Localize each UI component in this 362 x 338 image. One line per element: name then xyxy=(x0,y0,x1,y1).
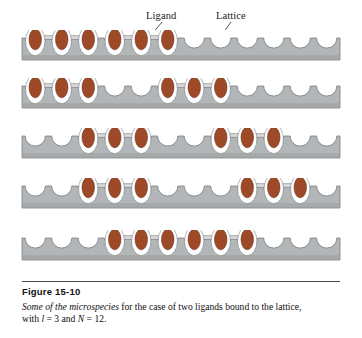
ligand-bead xyxy=(82,178,94,198)
lattice-graphic xyxy=(0,178,362,218)
ligand-bead xyxy=(135,30,147,50)
ligand-bead xyxy=(135,128,147,148)
ligand-bead xyxy=(215,230,227,250)
ligand-bead xyxy=(268,178,280,198)
leader-lines xyxy=(0,0,362,30)
caption-eq1: = 3 and xyxy=(44,313,78,324)
caption-eq2: = 12. xyxy=(84,313,106,324)
lattice-graphic xyxy=(0,230,362,270)
ligand-bead xyxy=(188,78,200,98)
ligand-bead xyxy=(56,30,68,50)
lattice-leader-line xyxy=(221,22,231,30)
ligand-bead xyxy=(241,178,253,198)
ligand-bead xyxy=(82,128,94,148)
ligand-bead xyxy=(109,178,121,198)
callout-label-layer: Ligand Lattice xyxy=(0,0,362,30)
ligand-bead xyxy=(109,30,121,50)
ligand-leader-line xyxy=(152,22,162,30)
ligand-bead xyxy=(241,128,253,148)
ligand-bead xyxy=(82,78,94,98)
ligand-bead xyxy=(188,230,200,250)
figure-15-10: Ligand Lattice Figure 15-10 Some of the … xyxy=(0,0,362,338)
ligand-bead xyxy=(162,78,174,98)
ligand-bead xyxy=(268,128,280,148)
ligand-bead xyxy=(294,178,306,198)
lattice-graphic xyxy=(0,30,362,70)
lattice-graphic xyxy=(0,78,362,118)
microspecies-row-4 xyxy=(0,178,362,212)
ligand-bead xyxy=(215,128,227,148)
figure-caption: Figure 15-10 Some of the microspecies fo… xyxy=(22,286,342,326)
ligand-bead xyxy=(162,30,174,50)
lattice-base-shadow xyxy=(22,153,340,158)
ligand-bead xyxy=(162,230,174,250)
ligand-bead xyxy=(109,230,121,250)
caption-text: Some of the microspecies for the case of… xyxy=(22,301,312,326)
lattice-base-shadow xyxy=(22,103,340,108)
microspecies-row-2 xyxy=(0,78,362,112)
ligand-bead xyxy=(82,30,94,50)
ligand-bead xyxy=(109,128,121,148)
microspecies-row-1 xyxy=(0,30,362,64)
microspecies-row-5 xyxy=(0,230,362,264)
ligand-bead xyxy=(135,230,147,250)
lattice-base-shadow xyxy=(22,255,340,260)
caption-title: Figure 15-10 xyxy=(22,286,342,297)
ligand-bead xyxy=(29,78,41,98)
lattice-graphic xyxy=(0,128,362,168)
ligand-bead xyxy=(215,78,227,98)
lattice-base-shadow xyxy=(22,203,340,208)
ligand-bead xyxy=(56,78,68,98)
lattice-base-shadow xyxy=(22,55,340,60)
ligand-bead xyxy=(29,30,41,50)
ligand-bead xyxy=(135,178,147,198)
microspecies-row-3 xyxy=(0,128,362,162)
caption-divider xyxy=(22,281,340,282)
ligand-bead xyxy=(241,230,253,250)
caption-lead-italic: Some of the microspecies xyxy=(22,301,119,312)
